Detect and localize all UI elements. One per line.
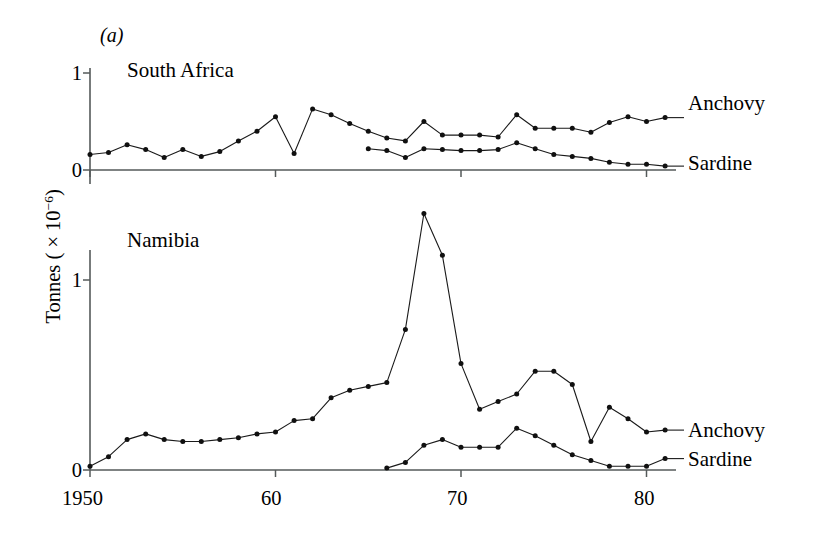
data-point-lower-anchovy-1970 <box>459 361 464 366</box>
data-point-lower-anchovy-1978 <box>607 405 612 410</box>
data-point-upper-sardine-1973 <box>514 140 519 145</box>
data-point-upper-anchovy-1955 <box>180 147 185 152</box>
y-axis-title: Tonnes ( × 10−6) <box>41 141 66 371</box>
data-point-lower-anchovy-1967 <box>403 327 408 332</box>
data-point-lower-anchovy-1961 <box>292 418 297 423</box>
data-point-upper-anchovy-1974 <box>533 126 538 131</box>
data-point-upper-anchovy-1973 <box>514 112 519 117</box>
data-point-lower-anchovy-1980 <box>644 430 649 435</box>
data-point-upper-anchovy-1968 <box>421 119 426 124</box>
data-point-upper-sardine-1980 <box>644 162 649 167</box>
data-point-upper-anchovy-1962 <box>310 106 315 111</box>
data-point-lower-anchovy-1960 <box>273 430 278 435</box>
data-point-upper-anchovy-1976 <box>570 126 575 131</box>
data-point-lower-anchovy-1974 <box>533 369 538 374</box>
data-point-upper-sardine-1975 <box>551 152 556 157</box>
data-point-upper-anchovy-1969 <box>440 133 445 138</box>
data-point-lower-anchovy-1969 <box>440 253 445 258</box>
data-point-lower-sardine-1979 <box>626 464 631 469</box>
data-point-lower-anchovy-1973 <box>514 392 519 397</box>
x-tick-80: 80 <box>634 487 655 510</box>
data-point-upper-sardine-1976 <box>570 154 575 159</box>
data-point-upper-anchovy-1967 <box>403 138 408 143</box>
data-point-upper-sardine-1969 <box>440 147 445 152</box>
data-point-lower-anchovy-1971 <box>477 407 482 412</box>
data-point-upper-sardine-1971 <box>477 148 482 153</box>
data-point-lower-anchovy-1957 <box>217 437 222 442</box>
data-point-upper-anchovy-1957 <box>217 149 222 154</box>
x-tick-70: 70 <box>447 487 468 510</box>
data-point-upper-anchovy-1980 <box>644 119 649 124</box>
data-point-upper-anchovy-1978 <box>607 120 612 125</box>
data-point-lower-sardine-1972 <box>496 445 501 450</box>
data-point-lower-anchovy-1951 <box>106 454 111 459</box>
data-point-upper-sardine-1974 <box>533 146 538 151</box>
data-point-upper-anchovy-1971 <box>477 133 482 138</box>
y-axis-title-suffix: ) <box>42 189 64 196</box>
data-point-upper-anchovy-1950 <box>88 152 93 157</box>
data-point-lower-anchovy-1950 <box>88 464 93 469</box>
data-point-upper-anchovy-1953 <box>143 147 148 152</box>
data-point-upper-sardine-1978 <box>607 160 612 165</box>
x-tick-60: 60 <box>261 487 282 510</box>
data-point-lower-anchovy-1958 <box>236 435 241 440</box>
data-point-upper-sardine-1968 <box>421 146 426 151</box>
data-point-upper-anchovy-1972 <box>496 135 501 140</box>
data-point-lower-anchovy-1962 <box>310 416 315 421</box>
data-point-upper-anchovy-1959 <box>255 129 260 134</box>
data-point-upper-sardine-1977 <box>588 156 593 161</box>
data-point-lower-anchovy-1975 <box>551 369 556 374</box>
data-point-lower-sardine-1980 <box>644 464 649 469</box>
data-point-upper-anchovy-1961 <box>292 151 297 156</box>
y-axis-title-exponent: −6 <box>41 196 56 210</box>
y-tick-lower-0: 0 <box>60 459 82 482</box>
data-point-lower-sardine-1966 <box>384 466 389 471</box>
data-point-upper-anchovy-1966 <box>384 136 389 141</box>
data-point-lower-anchovy-1955 <box>180 439 185 444</box>
panel-letter: (a) <box>100 24 123 47</box>
panel-south-africa <box>83 68 684 184</box>
panel-title-south-africa: South Africa <box>127 58 234 83</box>
data-point-upper-sardine-1965 <box>366 146 371 151</box>
data-point-lower-anchovy-1964 <box>347 388 352 393</box>
data-point-upper-sardine-1979 <box>626 162 631 167</box>
data-point-lower-anchovy-1965 <box>366 384 371 389</box>
series-label-lower-anchovy: Anchovy <box>688 418 765 443</box>
data-point-upper-anchovy-1975 <box>551 126 556 131</box>
data-point-lower-sardine-1968 <box>421 443 426 448</box>
data-point-lower-sardine-1977 <box>588 458 593 463</box>
series-label-upper-anchovy: Anchovy <box>688 91 765 116</box>
data-point-lower-anchovy-1979 <box>626 416 631 421</box>
data-point-lower-sardine-1970 <box>459 445 464 450</box>
data-point-lower-anchovy-1956 <box>199 439 204 444</box>
data-point-upper-sardine-1972 <box>496 147 501 152</box>
data-point-upper-anchovy-1977 <box>588 130 593 135</box>
data-point-upper-sardine-1970 <box>459 148 464 153</box>
data-point-lower-anchovy-1963 <box>329 395 334 400</box>
data-point-upper-anchovy-1964 <box>347 121 352 126</box>
data-point-upper-anchovy-1952 <box>125 142 130 147</box>
series-line-lower-sardine <box>387 428 665 468</box>
data-point-upper-sardine-1966 <box>384 148 389 153</box>
figure-container: (a) South Africa Namibia 1 0 1 0 Tonnes … <box>0 0 813 538</box>
data-point-upper-anchovy-1979 <box>626 114 631 119</box>
data-point-lower-sardine-1978 <box>607 464 612 469</box>
panel-title-namibia: Namibia <box>127 228 199 253</box>
data-point-upper-anchovy-1954 <box>162 155 167 160</box>
data-point-lower-anchovy-1954 <box>162 437 167 442</box>
data-point-lower-anchovy-1959 <box>255 431 260 436</box>
data-point-upper-anchovy-1963 <box>329 112 334 117</box>
series-label-lower-sardine: Sardine <box>688 447 752 472</box>
data-point-lower-anchovy-1966 <box>384 380 389 385</box>
data-point-lower-anchovy-1952 <box>125 437 130 442</box>
data-point-upper-anchovy-1951 <box>106 150 111 155</box>
data-point-upper-anchovy-1960 <box>273 114 278 119</box>
series-label-upper-sardine: Sardine <box>688 151 752 176</box>
data-point-lower-anchovy-1977 <box>588 439 593 444</box>
data-point-upper-sardine-1967 <box>403 155 408 160</box>
y-tick-upper-1: 1 <box>60 62 82 85</box>
data-point-lower-anchovy-1953 <box>143 431 148 436</box>
data-point-upper-anchovy-1956 <box>199 154 204 159</box>
data-point-lower-sardine-1969 <box>440 437 445 442</box>
data-point-lower-sardine-1976 <box>570 452 575 457</box>
